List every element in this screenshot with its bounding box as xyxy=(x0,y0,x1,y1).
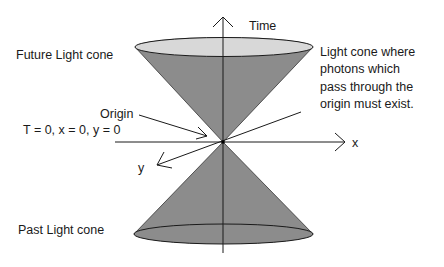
future-cone-opening xyxy=(135,38,313,57)
light-cone-diagram: Time x y Future Light cone Past Light co… xyxy=(0,0,444,267)
origin-label: Origin xyxy=(100,107,133,121)
x-axis-label: x xyxy=(352,136,359,150)
origin-point xyxy=(221,140,225,144)
cone-description-line: photons which xyxy=(320,62,400,76)
cone-description-line: Light cone where xyxy=(320,45,415,59)
cone-description: Light cone where photons which pass thro… xyxy=(320,45,415,111)
y-axis-label: y xyxy=(138,161,145,175)
time-axis-label: Time xyxy=(249,19,276,33)
cone-description-line: origin must exist. xyxy=(320,97,414,111)
cone-description-line: pass through the xyxy=(320,80,413,94)
past-cone-label: Past Light cone xyxy=(18,223,104,237)
future-cone-label: Future Light cone xyxy=(16,48,113,62)
origin-coords-label: T = 0, x = 0, y = 0 xyxy=(23,123,120,137)
origin-pointer xyxy=(139,115,207,136)
